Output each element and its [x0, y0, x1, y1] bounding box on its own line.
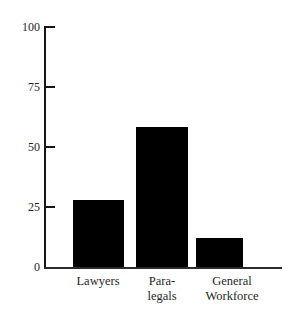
x-axis-line — [44, 267, 282, 269]
y-tick-100 — [46, 26, 55, 28]
bar-paralegals — [136, 127, 188, 267]
y-tick-75 — [46, 86, 55, 88]
bar-chart-figure: 100 75 50 25 0 Lawyers Para- legals Gene… — [0, 0, 296, 317]
y-axis-label-100: 100 — [0, 21, 44, 33]
plot-area: 100 75 50 25 0 Lawyers Para- legals Gene… — [0, 0, 296, 317]
y-tick-25 — [46, 206, 55, 208]
y-axis-label-50: 50 — [0, 141, 44, 153]
y-axis-label-25: 25 — [0, 201, 44, 213]
y-axis-label-75: 75 — [0, 81, 44, 93]
x-axis-label-general-workforce: General Workforce — [182, 274, 282, 304]
bar-general-workforce — [196, 238, 243, 267]
y-axis-label-0: 0 — [0, 261, 44, 273]
bar-lawyers — [73, 200, 124, 267]
y-tick-50 — [46, 146, 55, 148]
